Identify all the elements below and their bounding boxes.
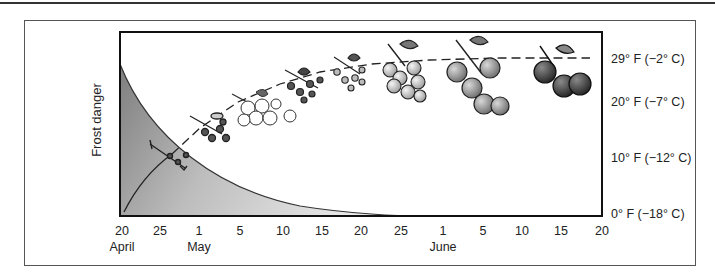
x-tick: 1 xyxy=(196,224,203,238)
x-tick: 15 xyxy=(315,224,329,238)
frost-danger-area xyxy=(120,64,420,216)
fruit-set-icon xyxy=(334,54,365,91)
x-tick: 25 xyxy=(153,224,167,238)
temp-label-0f: 0° F (−18° C) xyxy=(611,207,685,221)
ripening-fruit-icon xyxy=(447,36,509,115)
temp-label-10f: 10° F (−12° C) xyxy=(611,151,692,165)
x-tick: 20 xyxy=(354,224,368,238)
x-tick: 10 xyxy=(515,224,529,238)
bloom-flowers-icon xyxy=(232,89,296,126)
twig-leaf-icon xyxy=(190,113,230,142)
temp-label-20f: 20° F (−7° C) xyxy=(611,95,685,109)
x-tick: 15 xyxy=(554,224,568,238)
x-tick: 25 xyxy=(394,224,408,238)
temp-label-29f: 29° F (−2° C) xyxy=(611,52,685,66)
x-tick: 20 xyxy=(595,224,609,238)
x-tick: 5 xyxy=(237,224,244,238)
x-tick: 20 xyxy=(115,224,129,238)
x-tick: 1 xyxy=(440,224,447,238)
x-tick: 10 xyxy=(276,224,290,238)
x-tick: 5 xyxy=(480,224,487,238)
month-label-may: May xyxy=(187,240,211,254)
month-label-april: April xyxy=(109,240,134,254)
green-fruit-cluster-icon xyxy=(383,40,426,102)
month-label-june: June xyxy=(429,240,456,254)
ripe-fruit-icon xyxy=(534,45,591,97)
